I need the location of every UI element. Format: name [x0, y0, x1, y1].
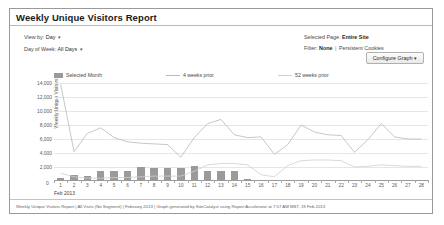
x-axis-tick-label: 1: [59, 183, 62, 188]
page-title: Weekly Unique Visitors Report: [16, 12, 157, 23]
x-axis-tick-mark: [54, 180, 55, 183]
x-axis-period-label: Feb 2013: [54, 190, 75, 196]
x-axis-tick-label: 9: [166, 183, 169, 188]
x-axis-tick-label: 7: [140, 183, 143, 188]
x-axis-tick-label: 24: [365, 183, 370, 188]
x-axis-tick-mark: [188, 180, 189, 183]
y-axis-tick-label: 12,000: [37, 95, 52, 100]
x-axis-tick-mark: [401, 180, 402, 183]
x-axis-tick-label: 10: [178, 183, 183, 188]
x-axis-tick-label: 15: [245, 183, 250, 188]
configure-graph-button[interactable]: Configure Graph ▾: [366, 52, 424, 64]
x-axis-tick-label: 23: [352, 183, 357, 188]
filter-extra: Persistent Cookies: [339, 45, 384, 51]
legend-label: Selected Month: [66, 72, 102, 78]
x-axis-tick-label: 20: [312, 183, 317, 188]
report-meta: Selected Page: Entire Site Filter: None …: [304, 32, 384, 53]
chevron-down-icon[interactable]: ▾: [79, 47, 83, 52]
x-axis-tick-label: 5: [113, 183, 116, 188]
x-axis-tick-mark: [428, 180, 429, 183]
filter-label: Filter:: [304, 45, 317, 51]
x-axis-tick-mark: [348, 180, 349, 183]
report-footer: Weekly Unique Visitors Report | All Visi…: [10, 199, 432, 213]
x-axis-tick-label: 26: [392, 183, 397, 188]
view-controls: View by: Day ▾ Day of Week: All Days ▾: [24, 32, 83, 55]
x-axis-tick-mark: [335, 180, 336, 183]
x-axis-tick-mark: [228, 180, 229, 183]
controls-row: View by: Day ▾ Day of Week: All Days ▾ S…: [10, 26, 432, 70]
x-axis-tick-mark: [321, 180, 322, 183]
y-axis-tick-label: 8,000: [40, 123, 52, 128]
x-axis-tick-label: 13: [218, 183, 223, 188]
chart-area: Selected Month4 weeks prior52 weeks prio…: [16, 70, 426, 194]
x-axis-tick-label: 2: [73, 183, 76, 188]
legend-swatch-line-icon: [166, 75, 180, 76]
x-axis-tick-label: 28: [419, 183, 424, 188]
x-axis-tick-mark: [281, 180, 282, 183]
legend-item[interactable]: 4 weeks prior: [166, 72, 214, 78]
x-axis-tick-label: 27: [405, 183, 410, 188]
chevron-down-icon[interactable]: ▾: [57, 35, 61, 40]
x-axis-tick-label: 21: [325, 183, 330, 188]
y-axis-tick-label: 4,000: [40, 151, 52, 156]
x-axis-tick-label: 11: [192, 183, 197, 188]
x-axis-tick-label: 19: [298, 183, 303, 188]
x-axis-tick-mark: [375, 180, 376, 183]
day-of-week-label: Day of Week:: [24, 46, 56, 52]
view-by-control[interactable]: View by: Day ▾: [24, 32, 83, 44]
x-axis-tick-mark: [174, 180, 175, 183]
x-axis-tick-label: 6: [126, 183, 129, 188]
chart-legend: Selected Month4 weeks prior52 weeks prio…: [16, 70, 426, 83]
legend-swatch-line-icon: [278, 75, 292, 76]
legend-label: 4 weeks prior: [183, 72, 214, 78]
report-title-bar: Weekly Unique Visitors Report: [10, 9, 432, 26]
x-axis-tick-mark: [361, 180, 362, 183]
x-axis-tick-mark: [415, 180, 416, 183]
report-panel: Weekly Unique Visitors Report View by: D…: [9, 8, 433, 214]
x-axis-tick-label: 14: [232, 183, 237, 188]
x-axis-tick-mark: [81, 180, 82, 183]
x-axis-tick-label: 12: [205, 183, 210, 188]
x-axis-tick-label: 17: [272, 183, 277, 188]
selected-page-value: Entire Site: [342, 34, 369, 40]
x-axis-tick-mark: [121, 180, 122, 183]
x-axis-tick-label: 3: [86, 183, 89, 188]
selected-page-row: Selected Page: Entire Site: [304, 32, 384, 43]
y-axis-zero-label: 0: [46, 181, 49, 186]
x-axis-tick-mark: [294, 180, 295, 183]
day-of-week-value: All Days: [57, 46, 77, 52]
x-axis-tick-mark: [107, 180, 108, 183]
x-axis-tick-label: 4: [99, 183, 102, 188]
view-by-value: Day: [46, 34, 56, 40]
x-axis-tick-label: 8: [153, 183, 156, 188]
filter-separator: |: [334, 45, 337, 51]
x-axis-tick-mark: [148, 180, 149, 183]
view-by-label: View by:: [24, 34, 44, 40]
y-axis-tick-label: 6,000: [40, 137, 52, 142]
x-axis-tick-mark: [308, 180, 309, 183]
x-axis-tick-label: 25: [379, 183, 384, 188]
y-axis-tick-label: 10,000: [37, 109, 52, 114]
legend-item[interactable]: 52 weeks prior: [278, 72, 329, 78]
footer-text: Weekly Unique Visitors Report | All Visi…: [16, 204, 325, 209]
x-axis-tick-mark: [268, 180, 269, 183]
x-axis-tick-mark: [134, 180, 135, 183]
day-of-week-control[interactable]: Day of Week: All Days ▾: [24, 44, 83, 56]
x-axis-labels: 1234567891011121314151617181920212223242…: [54, 183, 428, 192]
x-axis-tick-mark: [254, 180, 255, 183]
legend-label: 52 weeks prior: [295, 72, 329, 78]
x-axis-tick-mark: [388, 180, 389, 183]
line-series[interactable]: [61, 160, 422, 178]
y-axis-tick-label: 14,000: [37, 81, 52, 86]
x-axis-tick-label: 22: [339, 183, 344, 188]
line-series[interactable]: [61, 84, 422, 157]
legend-item[interactable]: Selected Month: [54, 72, 102, 78]
line-series-layer: [54, 83, 428, 181]
plot-area: Weekly Unique Visitors 2,0004,0006,0008,…: [54, 83, 428, 181]
y-axis-tick-label: 2,000: [40, 165, 52, 170]
x-axis-tick-label: 16: [258, 183, 263, 188]
x-axis-tick-mark: [67, 180, 68, 183]
filter-value: None: [319, 45, 332, 51]
selected-page-label: Selected Page:: [304, 34, 341, 40]
x-axis-tick-mark: [214, 180, 215, 183]
